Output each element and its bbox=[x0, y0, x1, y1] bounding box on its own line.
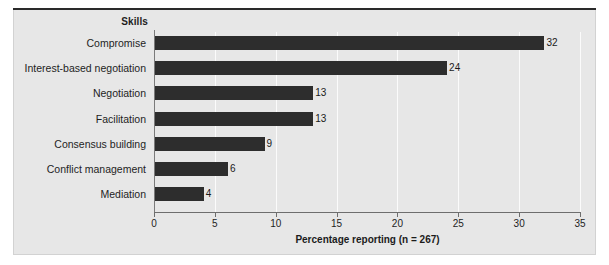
bar-row: Interest-based negotiation24 bbox=[154, 59, 580, 83]
bar bbox=[155, 162, 228, 176]
value-axis-tick-35 bbox=[580, 213, 581, 217]
category-label: Mediation bbox=[100, 188, 146, 200]
bar bbox=[155, 187, 204, 201]
bar bbox=[155, 86, 313, 100]
bar-row: Consensus building9 bbox=[154, 135, 580, 159]
category-axis-header: Skills bbox=[20, 16, 148, 27]
value-axis-tick-label-25: 25 bbox=[443, 218, 473, 229]
bar-row: Compromise32 bbox=[154, 34, 580, 58]
value-axis-tick-label-30: 30 bbox=[504, 218, 534, 229]
value-axis-tick-0 bbox=[154, 213, 155, 217]
bar-row: Conflict management6 bbox=[154, 160, 580, 184]
bar bbox=[155, 36, 544, 50]
plot-area: Compromise32Interest-based negotiation24… bbox=[154, 32, 580, 212]
value-axis-title: Percentage reporting (n = 267) bbox=[154, 234, 581, 245]
bar bbox=[155, 112, 313, 126]
bar-row: Facilitation13 bbox=[154, 110, 580, 134]
bar-value-label: 24 bbox=[449, 62, 460, 73]
bar bbox=[155, 137, 265, 151]
bar-value-label: 13 bbox=[315, 87, 326, 98]
bar-row: Negotiation13 bbox=[154, 84, 580, 108]
value-axis-tick-5 bbox=[215, 213, 216, 217]
value-axis-tick-15 bbox=[337, 213, 338, 217]
bar-value-label: 4 bbox=[206, 188, 212, 199]
value-axis-tick-label-10: 10 bbox=[261, 218, 291, 229]
category-label: Compromise bbox=[86, 37, 146, 49]
bar-chart-figure: Skills Compromise32Interest-based negoti… bbox=[0, 0, 609, 265]
bar-value-label: 9 bbox=[267, 138, 273, 149]
value-axis-tick-30 bbox=[519, 213, 520, 217]
value-axis-tick-label-5: 5 bbox=[200, 218, 230, 229]
value-axis-tick-label-15: 15 bbox=[322, 218, 352, 229]
value-axis-tick-20 bbox=[397, 213, 398, 217]
bar-row: Mediation4 bbox=[154, 185, 580, 209]
value-axis-tick-label-20: 20 bbox=[382, 218, 412, 229]
bar bbox=[155, 61, 447, 75]
bar-value-label: 32 bbox=[546, 37, 557, 48]
category-label: Interest-based negotiation bbox=[25, 62, 146, 74]
category-label: Consensus building bbox=[54, 138, 146, 150]
category-label: Facilitation bbox=[96, 113, 146, 125]
bar-value-label: 6 bbox=[230, 163, 236, 174]
value-axis-tick-25 bbox=[458, 213, 459, 217]
gridline-35 bbox=[580, 32, 581, 212]
category-label: Conflict management bbox=[47, 163, 146, 175]
value-axis-tick-label-0: 0 bbox=[139, 218, 169, 229]
value-axis-line bbox=[154, 212, 581, 213]
value-axis-tick-10 bbox=[276, 213, 277, 217]
bar-value-label: 13 bbox=[315, 113, 326, 124]
category-label: Negotiation bbox=[93, 87, 146, 99]
value-axis-tick-label-35: 35 bbox=[565, 218, 595, 229]
